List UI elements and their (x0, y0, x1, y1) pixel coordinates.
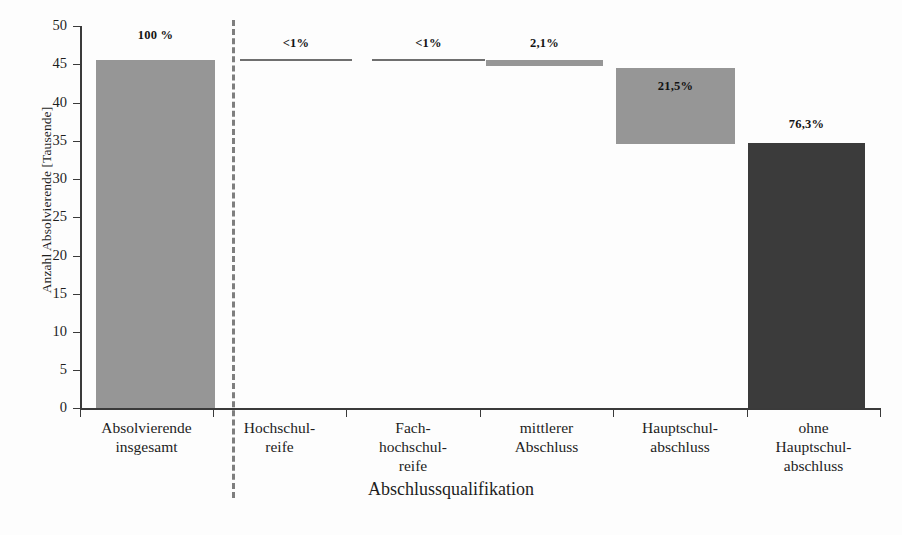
y-tick-label-5: 5 (60, 361, 67, 378)
category-line: Absolvierende (80, 418, 213, 437)
category-line: Fach- (346, 418, 480, 437)
x-tick-0 (80, 409, 81, 417)
category-line: Hochschul- (213, 418, 346, 437)
x-tick-6 (880, 409, 881, 417)
y-tick-label-30: 30 (53, 170, 68, 187)
y-tick-50: 50 (73, 26, 81, 27)
y-tick-label-45: 45 (53, 55, 68, 72)
y-tick-35: 35 (73, 141, 81, 142)
category-label-fachhochschulreife: Fach- hochschul- reife (346, 418, 480, 475)
y-tick-10: 10 (73, 332, 81, 333)
bar-ohne-hauptschulabschluss[interactable] (748, 143, 865, 408)
category-label-absolvierende-insgesamt: Absolvierende insgesamt (80, 418, 213, 456)
value-label-ohne-hauptschulabschluss: 76,3% (748, 117, 865, 132)
category-line: Hauptschul- (613, 418, 747, 437)
y-tick-label-0: 0 (60, 399, 67, 416)
category-line: mittlerer (480, 418, 613, 437)
bar-fachhochschulreife[interactable] (372, 59, 485, 61)
value-label-mittlerer-abschluss: 2,1% (486, 36, 603, 51)
category-label-mittlerer-abschluss: mittlerer Abschluss (480, 418, 613, 456)
category-line: Abschluss (480, 437, 613, 456)
x-tick-2 (346, 409, 347, 417)
y-tick-label-25: 25 (53, 208, 68, 225)
category-line: abschluss (613, 437, 747, 456)
y-tick-45: 45 (73, 64, 81, 65)
waterfall-bar-chart: Anzahl Absolvierende [Tausende] 50 45 40… (0, 0, 902, 535)
y-tick-label-40: 40 (53, 94, 68, 111)
bar-absolvierende-insgesamt[interactable] (96, 60, 215, 408)
value-label-hochschulreife: <1% (240, 36, 352, 51)
category-line: abschluss (747, 456, 880, 475)
y-tick-20: 20 (73, 256, 81, 257)
value-label-fachhochschulreife: <1% (372, 36, 485, 51)
y-tick-30: 30 (73, 179, 81, 180)
y-tick-15: 15 (73, 294, 81, 295)
x-axis-title: Abschlussqualifikation (0, 479, 902, 500)
y-tick-label-10: 10 (53, 323, 68, 340)
x-tick-3 (480, 409, 481, 417)
x-tick-4 (613, 409, 614, 417)
value-label-absolvierende-insgesamt: 100 % (96, 28, 215, 43)
category-line: reife (346, 456, 480, 475)
y-tick-25: 25 (73, 217, 81, 218)
value-label-hauptschulabschluss: 21,5% (616, 79, 735, 94)
category-line: Hauptschul- (747, 437, 880, 456)
category-line: reife (213, 437, 346, 456)
x-tick-5 (747, 409, 748, 417)
x-tick-1 (213, 409, 214, 417)
category-label-ohne-hauptschulabschluss: ohne Hauptschul- abschluss (747, 418, 880, 475)
y-tick-label-50: 50 (53, 17, 68, 34)
y-tick-label-35: 35 (53, 132, 68, 149)
y-tick-40: 40 (73, 103, 81, 104)
bar-mittlerer-abschluss[interactable] (486, 60, 603, 66)
category-label-hochschulreife: Hochschul- reife (213, 418, 346, 456)
category-line: insgesamt (80, 437, 213, 456)
y-tick-label-20: 20 (53, 247, 68, 264)
category-label-hauptschulabschluss: Hauptschul- abschluss (613, 418, 747, 456)
category-line: ohne (747, 418, 880, 437)
y-tick-label-15: 15 (53, 285, 68, 302)
bar-hochschulreife[interactable] (240, 59, 352, 61)
y-tick-5: 5 (73, 370, 81, 371)
category-line: hochschul- (346, 437, 480, 456)
